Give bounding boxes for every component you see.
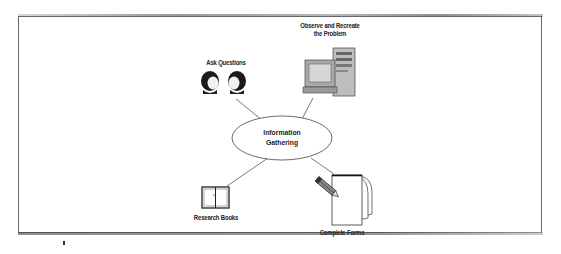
two-faces-icon xyxy=(199,68,249,98)
observe-label-line2: the Problem xyxy=(296,30,364,38)
observe-label-line1: Observe and Recreate xyxy=(296,22,364,30)
connector-lines xyxy=(0,0,561,254)
open-book-icon xyxy=(200,185,232,211)
observe-label: Observe and Recreate the Problem xyxy=(296,22,364,38)
form-with-pencil-icon xyxy=(310,172,376,228)
center-node-label: Information Gathering xyxy=(240,128,325,148)
connector-ask-questions xyxy=(236,99,262,120)
ask-questions-label: Ask Questions xyxy=(201,59,252,67)
research-books-label: Research Books xyxy=(191,214,242,222)
complete-forms-label: Complete Forms xyxy=(317,229,368,237)
center-label-line1: Information xyxy=(240,128,325,138)
connector-observe xyxy=(302,98,313,119)
connector-research-books xyxy=(227,158,268,186)
computer-icon xyxy=(302,40,362,100)
center-label-line2: Gathering xyxy=(240,138,325,148)
scan-artifact-mark xyxy=(63,241,65,245)
